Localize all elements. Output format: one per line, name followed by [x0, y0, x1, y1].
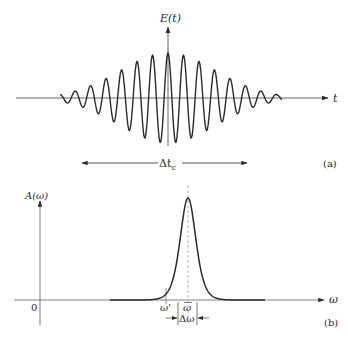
- panel-a-tag: (a): [323, 158, 337, 169]
- delta-omega-label: Δω: [179, 313, 194, 324]
- t-axis-label: t: [333, 92, 338, 105]
- panel-b: A(ω) ω 0 ω' ω Δω (b): [14, 185, 338, 328]
- figure: E(t) t Δtc (a) A(ω) ω 0 ω' ω Δω (b): [0, 0, 348, 339]
- panel-b-tag: (b): [324, 317, 338, 328]
- panel-a: E(t) t Δtc (a): [16, 12, 338, 172]
- a-axis-label: A(ω): [24, 190, 48, 201]
- delta-t-label: Δtc: [159, 157, 176, 172]
- omega-bar-label: ω: [183, 302, 191, 313]
- spectrum-curve: [110, 198, 265, 300]
- omega-axis-label: ω: [329, 293, 338, 306]
- e-axis-label: E(t): [159, 12, 181, 25]
- omega-prime-label: ω': [160, 302, 171, 313]
- origin-label: 0: [31, 302, 37, 313]
